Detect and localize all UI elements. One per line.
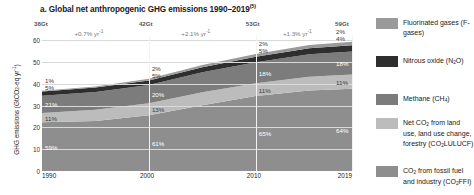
legend-item-co2-ffi[interactable]: CO2 from fossil fuel and industry (CO2FF… (376, 166, 474, 189)
legend-item-f-gases[interactable]: Fluorinated gases (F-gases) (376, 18, 474, 37)
gridline-60 (42, 40, 352, 41)
figure-panel-a: a. Global net anthropogenic GHG emission… (0, 0, 474, 195)
total-label-2019: 59Gt (335, 20, 349, 27)
legend-swatch-f-gases-icon (376, 18, 398, 29)
panel-title-text: a. Global net anthropogenic GHG emission… (40, 5, 250, 14)
share-label-co2-ffi-2010: 65% (259, 130, 271, 137)
x-axis-tick-1990: 1990 (42, 172, 56, 179)
legend-swatch-co2-lulucf-icon (376, 118, 398, 129)
share-label-co2-ffi-1990: 59% (45, 143, 57, 150)
share-label-co2-lulucf-2010: 11% (259, 86, 271, 93)
legend-item-ch4[interactable]: Methane (CH4) (376, 94, 450, 105)
panel-title-superscript: (5) (250, 3, 256, 9)
y-axis-tick-50: 50 (33, 59, 40, 66)
gridline-50 (42, 62, 352, 63)
share-label-co2-lulucf-1990: 11% (45, 114, 57, 121)
share-label-co2-ffi-2019: 64% (336, 126, 348, 133)
gridline-30 (42, 106, 352, 107)
x-axis-tick-2019: 2019 (338, 172, 352, 179)
page-title: a. Global net anthropogenic GHG emission… (40, 3, 256, 14)
gridline-40 (42, 84, 352, 85)
legend-item-co2-lulucf[interactable]: Net CO2 from land use, land use change, … (376, 118, 474, 151)
x-axis-ticks: 1990200020102019 (42, 172, 352, 186)
x-axis-tick-2010: 2010 (247, 172, 261, 179)
share-label-co2-ffi-2000: 61% (152, 140, 164, 147)
growth-rate-label-2000-2010: +2.1% yr-1 (181, 29, 210, 37)
share-label-co2-lulucf-2000: 13% (152, 106, 164, 113)
y-axis-tick-30: 30 (33, 102, 40, 109)
share-label-ch4-2000: 20% (152, 91, 164, 98)
share-label-n2o-2000: 5% (152, 71, 161, 78)
legend-label-n2o: Nitrous oxide (N2O) (403, 56, 464, 67)
y-axis-title: GHG emissions (GtCO2-eq yr-1) (12, 39, 21, 179)
vertical-guide-2019 (352, 36, 353, 171)
legend-swatch-co2-ffi-icon (376, 166, 398, 177)
share-label-f-gases-2019: 2% (336, 27, 345, 34)
vertical-guide-2000 (149, 36, 150, 171)
y-axis-tick-20: 20 (33, 124, 40, 131)
gridline-20 (42, 127, 352, 128)
legend-label-co2-ffi: CO2 from fossil fuel and industry (CO2FF… (403, 166, 474, 189)
legend-label-f-gases: Fluorinated gases (F-gases) (403, 18, 474, 37)
share-label-ch4-2019: 18% (336, 60, 348, 67)
y-axis-tick-60: 60 (33, 37, 40, 44)
share-label-ch4-1990: 21% (45, 101, 57, 108)
chart-plot-area: 1%5%21%11%59%2%5%20%13%61%2%5%18%11%65%2… (42, 36, 352, 171)
legend-swatch-n2o-icon (376, 56, 398, 67)
gridline-10 (42, 149, 352, 150)
share-label-n2o-1990: 5% (45, 83, 54, 90)
total-label-2000: 42Gt (139, 20, 153, 27)
vertical-guide-2010 (256, 36, 257, 171)
share-label-ch4-2010: 18% (259, 69, 271, 76)
share-label-co2-lulucf-2019: 11% (336, 78, 348, 85)
total-label-2010: 53Gt (246, 20, 260, 27)
share-label-f-gases-2010: 2% (259, 40, 268, 47)
x-axis-tick-2000: 2000 (140, 172, 154, 179)
legend-item-n2o[interactable]: Nitrous oxide (N2O) (376, 56, 464, 67)
share-label-f-gases-1990: 1% (45, 76, 54, 83)
legend-label-ch4: Methane (CH4) (403, 94, 450, 105)
legend-swatch-ch4-icon (376, 94, 398, 105)
stacked-area-series (42, 36, 352, 171)
y-axis-tick-40: 40 (33, 80, 40, 87)
y-axis-tick-0: 0 (36, 168, 40, 175)
growth-rate-label-1990-2000: +0.7% yr-1 (74, 29, 103, 37)
share-label-f-gases-2000: 2% (152, 64, 161, 71)
share-label-n2o-2010: 5% (259, 47, 268, 54)
share-label-n2o-2019: 4% (336, 34, 345, 41)
y-axis-tick-10: 10 (33, 146, 40, 153)
total-label-1990: 38Gt (34, 20, 48, 27)
legend-label-co2-lulucf: Net CO2 from land use, land use change, … (403, 118, 474, 151)
growth-rate-label-2010-2019: +1.3% yr-1 (283, 29, 312, 37)
